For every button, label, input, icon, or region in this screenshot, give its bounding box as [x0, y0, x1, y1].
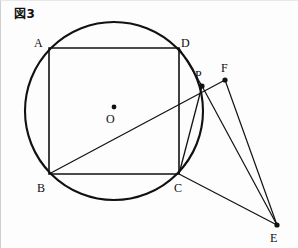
square-abcd	[49, 48, 179, 174]
point-dot-E	[274, 222, 279, 227]
center-point-dot-O	[112, 105, 117, 110]
center-label-O: O	[106, 113, 115, 125]
vertex-label-A: A	[34, 37, 43, 49]
point-label-F: F	[221, 62, 228, 74]
segment-P-E	[202, 86, 277, 225]
segment-C-E	[179, 174, 277, 225]
geometry-drawing	[1, 1, 298, 248]
point-label-P: P	[195, 69, 202, 81]
segment-F-E	[225, 80, 277, 225]
segment-P-C	[179, 86, 202, 174]
vertex-label-C: C	[174, 182, 182, 194]
point-dot-F	[222, 77, 227, 82]
segment-B-F	[49, 80, 225, 174]
point-label-E: E	[270, 232, 277, 244]
figure-container: 図3 A D C B O P F E	[0, 0, 298, 248]
vertex-label-B: B	[37, 182, 45, 194]
vertex-label-D: D	[181, 37, 190, 49]
point-dot-P	[199, 83, 204, 88]
